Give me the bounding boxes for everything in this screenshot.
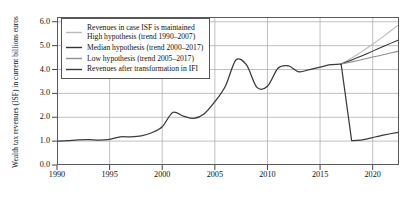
y-tick-label: 5.0	[28, 41, 50, 50]
x-tick-label: 2005	[198, 170, 232, 179]
x-tick-label: 2020	[356, 170, 390, 179]
y-tick-label: 2.0	[28, 112, 50, 121]
y-tick-label: 6.0	[28, 17, 50, 26]
y-axis-title: Wealth tax revenues (ISF) in current bil…	[11, 3, 25, 168]
legend-entry: Revenues after transformation in IFI	[66, 64, 203, 75]
legend-entry: Low hypothesis (trend 2005–2017)	[66, 53, 203, 64]
wealth-tax-revenue-chart: Wealth tax revenues (ISF) in current bil…	[0, 0, 416, 198]
legend-entry: Revenues in case ISF is maintainedHigh h…	[66, 22, 203, 42]
x-tick-label: 1995	[93, 170, 127, 179]
legend-entry-label: Revenues after transformation in IFI	[87, 64, 203, 75]
x-tick-label: 1990	[40, 170, 74, 179]
y-tick-label: 0.0	[28, 160, 50, 169]
legend-color-swatch	[66, 42, 87, 53]
y-tick-label: 4.0	[28, 65, 50, 74]
x-tick-label: 2015	[303, 170, 337, 179]
legend-color-swatch	[66, 22, 87, 42]
legend-entry-label-line2: High hypothesis (trend 1990–2007)	[87, 32, 195, 41]
x-tick-label: 2000	[145, 170, 179, 179]
x-tick-label: 2010	[250, 170, 284, 179]
legend-entry-label: Median hypothesis (trend 2000–2017)	[87, 42, 203, 53]
legend-entry: Median hypothesis (trend 2000–2017)	[66, 42, 203, 53]
legend-color-swatch	[66, 64, 87, 75]
legend-table: Revenues in case ISF is maintainedHigh h…	[66, 22, 203, 75]
series-line-median	[341, 40, 398, 64]
y-tick-label: 1.0	[28, 136, 50, 145]
y-tick-label: 3.0	[28, 88, 50, 97]
legend-entry-label: Low hypothesis (trend 2005–2017)	[87, 53, 203, 64]
chart-legend: Revenues in case ISF is maintainedHigh h…	[61, 18, 210, 79]
legend-color-swatch	[66, 53, 87, 64]
legend-entry-label: Revenues in case ISF is maintainedHigh h…	[87, 22, 203, 42]
series-line-low	[341, 51, 398, 64]
